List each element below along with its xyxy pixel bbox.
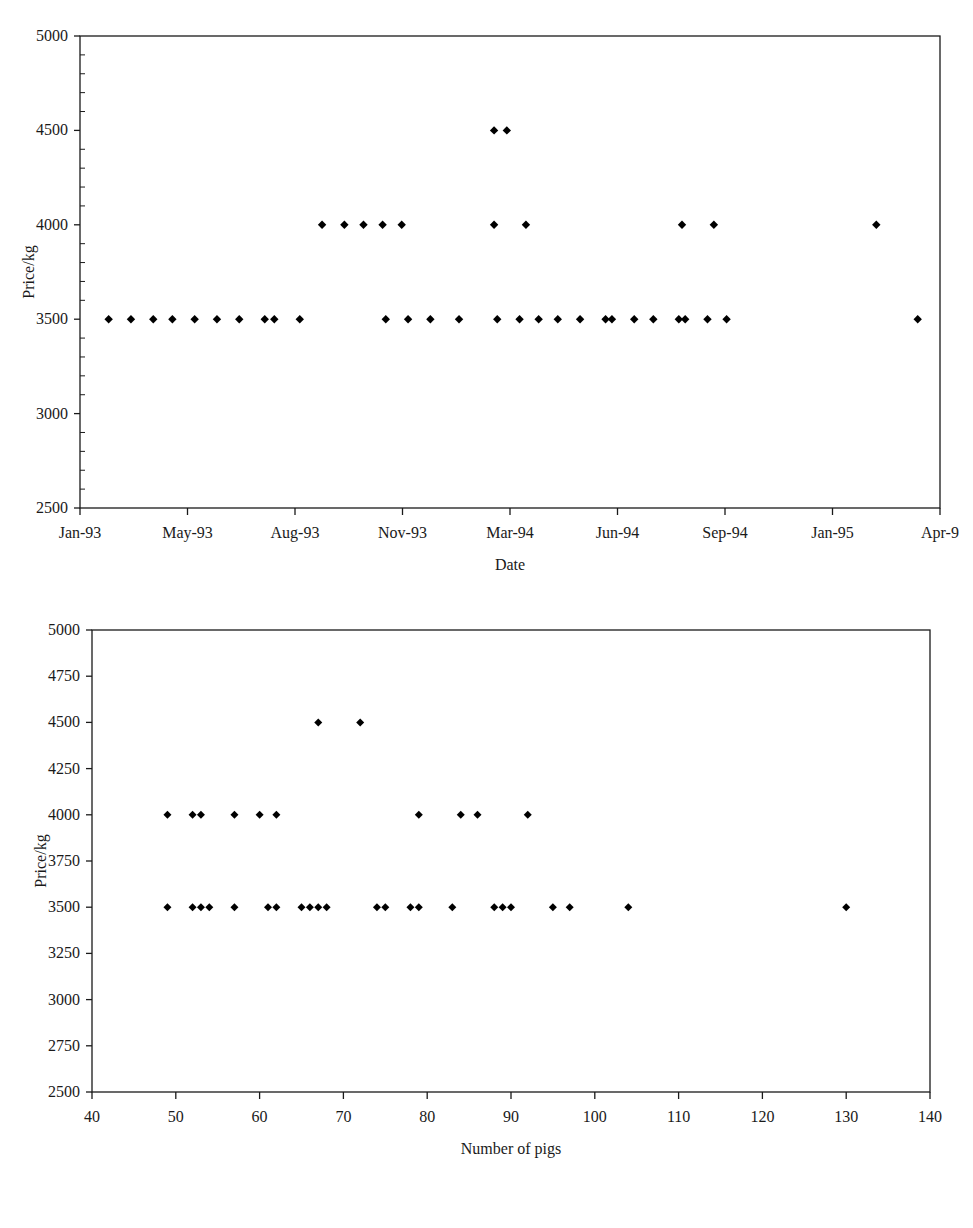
- data-point-marker: [473, 811, 481, 819]
- x-axis-tick-label: Aug-93: [271, 524, 320, 542]
- data-point-marker: [703, 315, 711, 323]
- data-points-group: [163, 718, 850, 911]
- data-point-marker: [678, 221, 686, 229]
- data-point-marker: [314, 718, 322, 726]
- data-point-marker: [554, 315, 562, 323]
- x-axis-tick-label: May-93: [162, 524, 213, 542]
- data-point-marker: [493, 315, 501, 323]
- data-point-marker: [127, 315, 135, 323]
- data-point-marker: [149, 315, 157, 323]
- data-point-marker: [404, 315, 412, 323]
- data-point-marker: [566, 903, 574, 911]
- x-axis-tick-label: 120: [750, 1108, 774, 1125]
- y-axis-tick-label: 4000: [36, 216, 68, 233]
- y-axis-tick-label: 5000: [36, 27, 68, 44]
- data-point-marker: [373, 903, 381, 911]
- y-axis-tick-label: 4250: [48, 760, 80, 777]
- y-axis-tick-label: 4750: [48, 667, 80, 684]
- data-point-marker: [296, 315, 304, 323]
- x-axis-tick-label: Jan-95: [811, 524, 854, 541]
- data-point-marker: [298, 903, 306, 911]
- data-point-marker: [630, 315, 638, 323]
- data-point-marker: [722, 315, 730, 323]
- data-point-marker: [398, 221, 406, 229]
- y-axis-title: Price/kg: [32, 834, 50, 887]
- y-axis-tick-label: 2750: [48, 1037, 80, 1054]
- data-point-marker: [499, 903, 507, 911]
- x-axis-tick-label: Sep-94: [702, 524, 747, 542]
- data-point-marker: [534, 315, 542, 323]
- y-axis-tick-label: 4500: [48, 713, 80, 730]
- data-point-marker: [681, 315, 689, 323]
- data-point-marker: [406, 903, 414, 911]
- data-point-marker: [104, 315, 112, 323]
- data-point-marker: [190, 315, 198, 323]
- x-axis-tick-label: 70: [335, 1108, 351, 1125]
- x-axis-tick-label: Nov-93: [378, 524, 427, 541]
- data-point-marker: [306, 903, 314, 911]
- data-point-marker: [230, 903, 238, 911]
- x-axis-tick-label: Jan-93: [59, 524, 102, 541]
- data-point-marker: [455, 315, 463, 323]
- x-axis-tick-label: 50: [168, 1108, 184, 1125]
- x-axis-tick-label: 140: [918, 1108, 942, 1125]
- plot-frame: [92, 630, 930, 1092]
- data-point-marker: [415, 811, 423, 819]
- data-point-marker: [507, 903, 515, 911]
- x-axis-tick-label: 130: [834, 1108, 858, 1125]
- data-point-marker: [205, 903, 213, 911]
- x-axis-tick-label: Jun-94: [596, 524, 640, 541]
- x-axis-tick-label: 90: [503, 1108, 519, 1125]
- y-axis-tick-label: 3250: [48, 944, 80, 961]
- data-point-marker: [522, 221, 530, 229]
- data-point-marker: [235, 315, 243, 323]
- data-point-marker: [608, 315, 616, 323]
- data-point-marker: [378, 221, 386, 229]
- data-point-marker: [710, 221, 718, 229]
- data-point-marker: [426, 315, 434, 323]
- data-point-marker: [264, 903, 272, 911]
- data-point-marker: [168, 315, 176, 323]
- y-axis-tick-label: 4000: [48, 806, 80, 823]
- y-axis-tick-label: 5000: [48, 621, 80, 638]
- data-point-marker: [842, 903, 850, 911]
- data-point-marker: [256, 811, 264, 819]
- data-point-marker: [189, 903, 197, 911]
- data-point-marker: [340, 221, 348, 229]
- data-point-marker: [163, 811, 171, 819]
- x-axis-tick-label: 110: [667, 1108, 690, 1125]
- data-point-marker: [189, 811, 197, 819]
- x-axis-tick-label: 100: [583, 1108, 607, 1125]
- data-points-group: [104, 126, 921, 323]
- data-point-marker: [359, 221, 367, 229]
- x-axis-tick-label: 80: [419, 1108, 435, 1125]
- data-point-marker: [230, 811, 238, 819]
- data-point-marker: [318, 221, 326, 229]
- data-point-marker: [261, 315, 269, 323]
- plot-frame: [80, 36, 940, 508]
- data-point-marker: [624, 903, 632, 911]
- y-axis-tick-label: 3000: [48, 991, 80, 1008]
- x-axis-tick-label: 40: [84, 1108, 100, 1125]
- y-axis-tick-label: 4500: [36, 121, 68, 138]
- data-point-marker: [213, 315, 221, 323]
- y-axis-tick-label: 2500: [48, 1083, 80, 1100]
- price-vs-number-of-pigs-plot: 2500275030003250350037504000425045004750…: [0, 600, 973, 1228]
- data-point-marker: [576, 315, 584, 323]
- data-point-marker: [415, 903, 423, 911]
- x-axis-tick-label: Apr-9: [921, 524, 959, 542]
- data-point-marker: [270, 315, 278, 323]
- data-point-marker: [314, 903, 322, 911]
- data-point-marker: [457, 811, 465, 819]
- data-point-marker: [549, 903, 557, 911]
- y-axis-tick-label: 3500: [48, 898, 80, 915]
- data-point-marker: [872, 221, 880, 229]
- data-point-marker: [649, 315, 657, 323]
- chart-price-vs-number-of-pigs: 2500275030003250350037504000425045004750…: [0, 600, 973, 1228]
- y-axis-tick-label: 3750: [48, 852, 80, 869]
- data-point-marker: [490, 221, 498, 229]
- data-point-marker: [356, 718, 364, 726]
- x-axis-title: Date: [495, 556, 525, 573]
- data-point-marker: [197, 903, 205, 911]
- data-point-marker: [914, 315, 922, 323]
